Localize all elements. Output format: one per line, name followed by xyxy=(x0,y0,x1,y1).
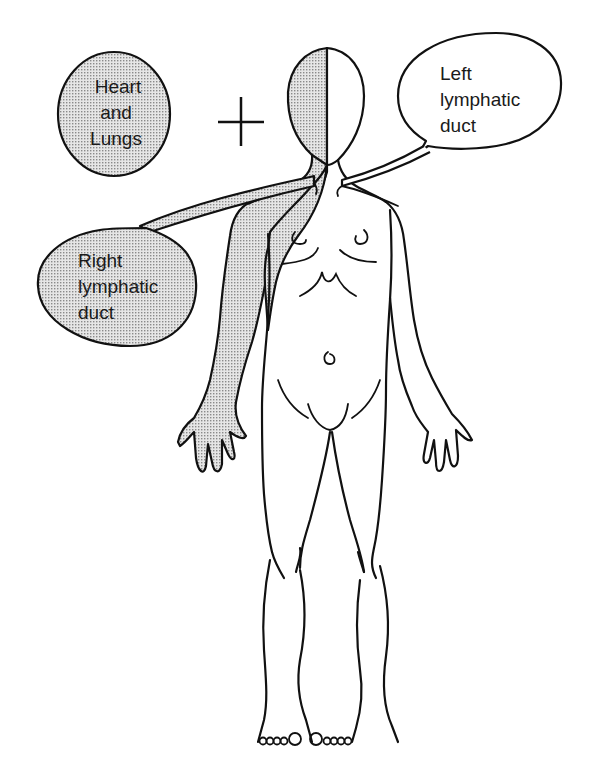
left-lymphatic-duct-bubble: Left lymphatic duct xyxy=(342,33,561,186)
heart-lungs-bubble: Heart and Lungs xyxy=(58,52,170,176)
head-shaded-half xyxy=(288,48,327,165)
lymphatic-drainage-diagram: Heart and Lungs Left lymphatic duct Righ… xyxy=(0,0,606,764)
groin-line-left xyxy=(352,380,380,418)
navel xyxy=(324,352,334,364)
lower-leg-left xyxy=(352,566,398,742)
plus-icon xyxy=(218,97,264,146)
head-plain-half xyxy=(327,48,364,165)
clavicle-left xyxy=(337,186,398,206)
right-duct-label-line1: Right xyxy=(78,250,123,271)
left-duct-label-line3: duct xyxy=(440,115,477,136)
left-duct-label-line2: lymphatic xyxy=(440,89,520,110)
heart-lungs-label-line2: and xyxy=(100,102,132,123)
nipple-left xyxy=(355,230,367,244)
sternum-detail xyxy=(300,272,356,296)
torso-outline-right xyxy=(374,210,392,548)
right-duct-label-line2: lymphatic xyxy=(78,276,158,297)
body-outline-left-side xyxy=(338,160,472,471)
lower-leg-right xyxy=(258,560,312,742)
leg-inner-right xyxy=(300,432,330,568)
left-duct-pointer xyxy=(342,146,430,186)
pubic-outline xyxy=(308,404,348,430)
groin-line-right xyxy=(278,380,308,418)
foot-left xyxy=(310,733,352,745)
knee-right xyxy=(272,548,301,578)
foot-right xyxy=(260,733,302,745)
pectoral-line-left xyxy=(340,250,376,262)
leg-inner-left xyxy=(332,432,364,572)
left-duct-label-line1: Left xyxy=(440,63,472,84)
heart-lungs-label-line1: Heart xyxy=(95,76,142,97)
right-duct-label-line3: duct xyxy=(78,302,115,323)
heart-lungs-label-line3: Lungs xyxy=(90,128,142,149)
